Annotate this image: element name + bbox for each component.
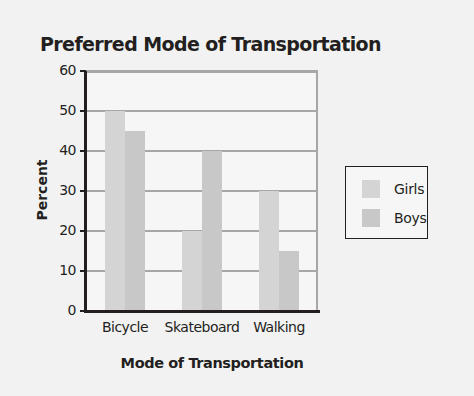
gridline bbox=[86, 70, 318, 72]
legend-item-girls: Girls bbox=[362, 180, 424, 198]
x-tick-label-walking: Walking bbox=[229, 319, 329, 335]
legend: Girls Boys bbox=[345, 166, 428, 239]
y-tick-mark bbox=[80, 110, 86, 112]
y-tick-label: 50 bbox=[40, 103, 76, 117]
y-tick-mark bbox=[80, 270, 86, 272]
y-tick-label: 10 bbox=[40, 263, 76, 277]
x-axis-label: Mode of Transportation bbox=[102, 355, 322, 371]
legend-item-boys: Boys bbox=[362, 209, 427, 227]
bar-skateboard-girls bbox=[182, 231, 202, 311]
bar-walking-boys bbox=[279, 251, 299, 311]
chart-title: Preferred Mode of Transportation bbox=[40, 33, 381, 55]
y-tick-mark bbox=[80, 150, 86, 152]
y-tick-label: 60 bbox=[40, 63, 76, 77]
y-tick-label: 20 bbox=[40, 223, 76, 237]
x-axis bbox=[84, 310, 320, 313]
y-tick-mark bbox=[80, 190, 86, 192]
bar-walking-girls bbox=[259, 191, 279, 311]
y-tick-mark bbox=[80, 230, 86, 232]
y-tick-mark bbox=[80, 70, 86, 72]
legend-label-girls: Girls bbox=[394, 181, 424, 197]
y-axis bbox=[84, 71, 87, 313]
bar-bicycle-girls bbox=[105, 111, 125, 311]
legend-swatch-girls bbox=[362, 180, 380, 198]
y-axis-label: Percent bbox=[34, 155, 50, 225]
y-tick-label: 0 bbox=[40, 303, 76, 317]
legend-label-boys: Boys bbox=[394, 210, 427, 226]
bar-skateboard-boys bbox=[202, 151, 222, 311]
bar-bicycle-boys bbox=[125, 131, 145, 311]
y-tick-mark bbox=[80, 310, 86, 312]
legend-swatch-boys bbox=[362, 209, 380, 227]
